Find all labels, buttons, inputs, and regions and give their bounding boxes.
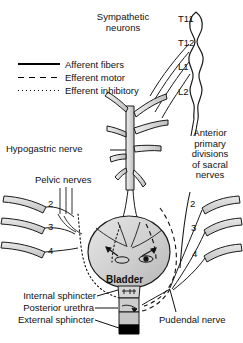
legend-label-efferent-motor: Efferent motor xyxy=(65,71,125,84)
legend-item-efferent-inhibitory: Efferent inhibitory xyxy=(18,84,139,97)
label-sacral-divisions: Anterior primary divisions of sacral ner… xyxy=(181,128,239,181)
label-pelvic-nerves: Pelvic nerves xyxy=(35,175,92,186)
label-hypogastric-nerve: Hypogastric nerve xyxy=(6,144,83,155)
label-spinal-l1: L1 xyxy=(178,62,189,73)
legend-key-dotted-icon xyxy=(18,90,60,91)
label-posterior-urethra: Posterior urethra xyxy=(2,303,94,314)
pelvic-nerve-hatching xyxy=(58,187,82,234)
label-sympathetic-neurons: Sympathetic neurons xyxy=(78,12,168,33)
label-pudendal-nerve: Pudendal nerve xyxy=(159,315,226,326)
label-root-left-4: 4 xyxy=(48,246,53,257)
legend-label-efferent-inhibitory: Efferent inhibitory xyxy=(65,84,139,97)
label-root-right-3: 3 xyxy=(191,223,196,234)
label-internal-sphincter: Internal sphincter xyxy=(2,291,96,302)
urethra-and-sphincters xyxy=(118,286,140,334)
label-bladder: Bladder xyxy=(106,275,143,286)
hypogastric-plexus xyxy=(105,92,168,226)
legend-item-afferent: Afferent fibers xyxy=(18,58,139,71)
legend-item-efferent-motor: Efferent motor xyxy=(18,71,139,84)
label-external-sphincter: External sphincter xyxy=(2,315,94,326)
label-root-right-2: 2 xyxy=(190,199,195,210)
legend-key-solid-icon xyxy=(18,63,60,66)
label-root-right-4: 4 xyxy=(192,249,197,260)
legend: Afferent fibers Efferent motor Efferent … xyxy=(18,58,139,97)
sympathetic-fibers xyxy=(150,44,190,118)
label-spinal-t11: T11 xyxy=(178,14,194,25)
label-spinal-t12: T12 xyxy=(178,38,194,49)
legend-key-dashed-icon xyxy=(18,77,60,79)
label-spinal-l2: L2 xyxy=(178,87,189,98)
label-root-left-3: 3 xyxy=(48,222,53,233)
spinal-cord xyxy=(189,12,203,136)
legend-label-afferent: Afferent fibers xyxy=(65,58,124,71)
label-root-left-2: 2 xyxy=(48,199,53,210)
